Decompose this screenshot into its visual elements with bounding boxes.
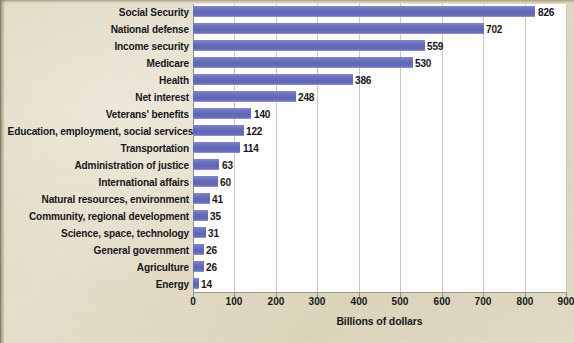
bar — [193, 91, 296, 102]
bar-row: Community, regional development35 — [0, 208, 574, 224]
bar-value-label: 122 — [246, 125, 262, 137]
bar-and-value: 386 — [193, 74, 372, 85]
bar-and-value: 31 — [193, 227, 220, 238]
bar — [193, 108, 251, 119]
page-top-edge-shadow — [0, 0, 574, 3]
x-tick-mark-700 — [483, 293, 484, 297]
bar — [193, 40, 425, 51]
x-tick-mark-900 — [566, 293, 567, 297]
category-label: Health — [8, 74, 189, 86]
bar-and-value: 60 — [193, 176, 232, 187]
bar-and-value: 826 — [193, 6, 555, 17]
bar-and-value: 530 — [193, 57, 432, 68]
bar-value-label: 35 — [210, 210, 221, 222]
bar-row: Natural resources, environment41 — [0, 191, 574, 207]
bar-value-label: 114 — [243, 142, 259, 154]
bar-value-label: 26 — [206, 261, 217, 273]
x-tick-mark-100 — [234, 293, 235, 297]
bar — [193, 278, 199, 289]
bar-value-label: 63 — [222, 159, 233, 171]
bar-row: Science, space, technology31 — [0, 225, 574, 241]
bar-value-label: 386 — [355, 74, 371, 86]
bar — [193, 193, 210, 204]
bar — [193, 125, 244, 136]
category-label: Agriculture — [8, 261, 189, 273]
bar-value-label: 559 — [427, 40, 443, 52]
x-tick-mark-0 — [193, 293, 194, 297]
bar-value-label: 60 — [220, 176, 231, 188]
bar — [193, 159, 219, 170]
category-label: Veterans' benefits — [8, 108, 189, 120]
category-label: Natural resources, environment — [8, 193, 189, 205]
bar — [193, 74, 353, 85]
category-label: Energy — [8, 278, 189, 290]
bar-value-label: 140 — [254, 108, 270, 120]
bar-value-label: 248 — [298, 91, 314, 103]
bar-row: Social Security826 — [0, 4, 574, 20]
x-tick-mark-500 — [400, 293, 401, 297]
bar — [193, 23, 484, 34]
bar-and-value: 35 — [193, 210, 221, 221]
bar-and-value: 63 — [193, 159, 233, 170]
bar-and-value: 122 — [193, 125, 263, 136]
bar-and-value: 41 — [193, 193, 224, 204]
category-label: Social Security — [8, 6, 189, 18]
category-label: National defense — [8, 23, 189, 35]
bar-and-value: 26 — [193, 261, 218, 272]
bar-row: Veterans' benefits140 — [0, 106, 574, 122]
bar-value-label: 26 — [206, 244, 217, 256]
x-axis-title: Billions of dollars — [193, 315, 566, 327]
x-tick-mark-300 — [317, 293, 318, 297]
bar-row: Medicare530 — [0, 55, 574, 71]
bar-row: Administration of justice63 — [0, 157, 574, 173]
budget-outlays-bar-chart: Social Security826National defense702Inc… — [0, 0, 574, 343]
x-tick-mark-600 — [442, 293, 443, 297]
category-label: Education, employment, social services — [8, 125, 189, 137]
bar-and-value: 114 — [193, 142, 259, 153]
bar — [193, 244, 204, 255]
bar — [193, 176, 218, 187]
bar-row: Net interest248 — [0, 89, 574, 105]
bar-row: International affairs60 — [0, 174, 574, 190]
bar-row: General government26 — [0, 242, 574, 258]
bar-and-value: 559 — [193, 40, 444, 51]
x-tick-mark-800 — [525, 293, 526, 297]
bar-rows: Social Security826National defense702Inc… — [0, 4, 574, 293]
bar-and-value: 26 — [193, 244, 218, 255]
category-label: International affairs — [8, 176, 189, 188]
bar — [193, 142, 240, 153]
category-label: Administration of justice — [8, 159, 189, 171]
bar-row: Energy14 — [0, 276, 574, 292]
bar-and-value: 248 — [193, 91, 315, 102]
bar-and-value: 140 — [193, 108, 270, 119]
category-label: Science, space, technology — [8, 227, 189, 239]
category-label: Net interest — [8, 91, 189, 103]
bar-row: Transportation114 — [0, 140, 574, 156]
bar-value-label: 41 — [212, 193, 223, 205]
category-label: General government — [8, 244, 189, 256]
x-tick-mark-400 — [359, 293, 360, 297]
bar-value-label: 530 — [415, 57, 431, 69]
bar-and-value: 14 — [193, 278, 213, 289]
x-axis-tick-labels: 0100200300400500600700800900 — [0, 295, 574, 309]
bar — [193, 210, 208, 221]
category-label: Transportation — [8, 142, 189, 154]
bar — [193, 6, 535, 17]
bar-value-label: 31 — [208, 227, 219, 239]
bar-value-label: 702 — [486, 23, 502, 35]
bar — [193, 57, 413, 68]
bar-row: Income security559 — [0, 38, 574, 54]
bar-value-label: 14 — [201, 278, 212, 290]
category-label: Community, regional development — [8, 210, 189, 222]
bar — [193, 261, 204, 272]
bar-row: Agriculture26 — [0, 259, 574, 275]
bar-row: Health386 — [0, 72, 574, 88]
bar-and-value: 702 — [193, 23, 503, 34]
bar-row: National defense702 — [0, 21, 574, 37]
category-label: Medicare — [8, 57, 189, 69]
bar-row: Education, employment, social services12… — [0, 123, 574, 139]
x-tick-mark-200 — [276, 293, 277, 297]
bar — [193, 227, 206, 238]
category-label: Income security — [8, 40, 189, 52]
bar-value-label: 826 — [538, 6, 554, 18]
